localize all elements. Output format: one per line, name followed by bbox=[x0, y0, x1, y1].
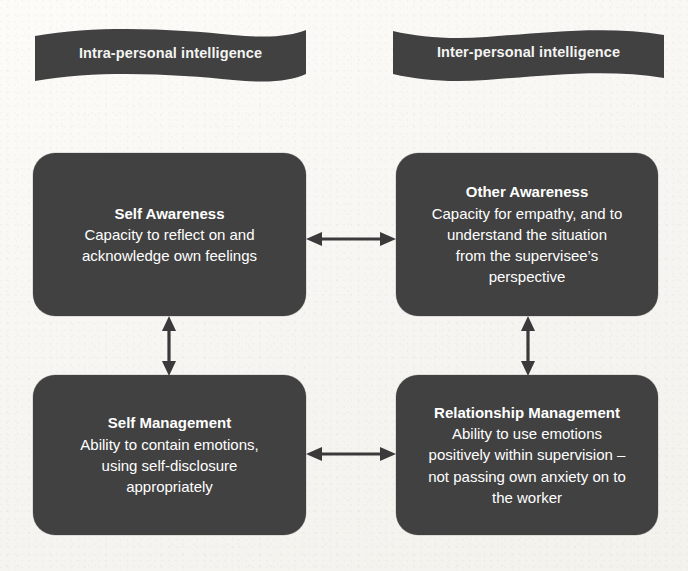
node-self-management[interactable]: Self Management Ability to contain emoti… bbox=[33, 375, 306, 535]
arrow-self-awareness-to-self-management bbox=[158, 316, 180, 376]
node-relationship-management-title: Relationship Management bbox=[410, 402, 644, 423]
node-other-awareness[interactable]: Other Awareness Capacity for empathy, an… bbox=[396, 153, 658, 316]
node-other-awareness-description: Capacity for empathy, and to understand … bbox=[410, 203, 644, 288]
node-self-management-description: Ability to contain emotions, using self-… bbox=[47, 434, 292, 498]
node-relationship-management[interactable]: Relationship Management Ability to use e… bbox=[396, 375, 658, 535]
banner-inter-personal: Inter-personal intelligence bbox=[391, 28, 666, 86]
double-headed-arrow-horizontal-icon bbox=[306, 228, 396, 250]
double-headed-arrow-vertical-icon bbox=[158, 316, 180, 376]
banner-intra-personal-label: Intra-personal intelligence bbox=[33, 45, 308, 61]
node-relationship-management-description: Ability to use emotions positively withi… bbox=[410, 423, 644, 508]
node-self-awareness-title: Self Awareness bbox=[47, 203, 292, 224]
arrow-other-awareness-to-relationship-management bbox=[517, 316, 539, 376]
diagram-canvas: Intra-personal intelligence Inter-person… bbox=[0, 0, 688, 571]
node-self-management-title: Self Management bbox=[47, 412, 292, 433]
arrow-self-management-to-relationship-management bbox=[306, 443, 396, 465]
banner-inter-personal-label: Inter-personal intelligence bbox=[391, 44, 666, 60]
node-other-awareness-title: Other Awareness bbox=[410, 181, 644, 202]
arrow-self-awareness-to-other-awareness bbox=[306, 228, 396, 250]
node-self-awareness-description: Capacity to reflect on and acknowledge o… bbox=[47, 224, 292, 267]
double-headed-arrow-vertical-icon bbox=[517, 316, 539, 376]
double-headed-arrow-horizontal-icon bbox=[306, 443, 396, 465]
banner-intra-personal: Intra-personal intelligence bbox=[33, 28, 308, 86]
node-self-awareness[interactable]: Self Awareness Capacity to reflect on an… bbox=[33, 153, 306, 316]
